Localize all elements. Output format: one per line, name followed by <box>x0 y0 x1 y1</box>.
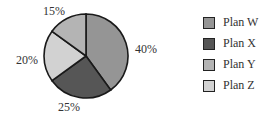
slice-label-plan-w: 40% <box>135 42 157 57</box>
legend-item-plan-x: Plan X <box>203 33 258 54</box>
legend-label: Plan X <box>223 36 256 51</box>
legend-swatch <box>203 59 215 71</box>
legend-label: Plan Y <box>223 57 256 72</box>
legend-swatch <box>203 38 215 50</box>
slice-label-plan-x: 25% <box>58 100 80 115</box>
legend-item-plan-y: Plan Y <box>203 54 258 75</box>
slice-label-plan-y: 15% <box>43 4 65 19</box>
legend-label: Plan W <box>223 15 258 30</box>
slice-label-plan-z: 20% <box>16 53 38 68</box>
pie-slices <box>44 14 128 98</box>
legend: Plan W Plan X Plan Y Plan Z <box>203 12 258 96</box>
legend-swatch <box>203 17 215 29</box>
legend-swatch <box>203 80 215 92</box>
legend-item-plan-z: Plan Z <box>203 75 258 96</box>
legend-item-plan-w: Plan W <box>203 12 258 33</box>
legend-label: Plan Z <box>223 78 255 93</box>
